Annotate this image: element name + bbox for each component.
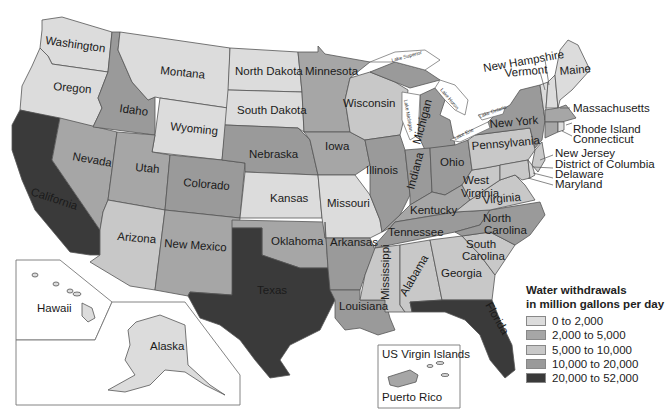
label-kansas: Kansas (270, 192, 309, 204)
state-connecticut[interactable] (545, 122, 558, 138)
state-rhode-island[interactable] (558, 122, 564, 132)
label-oklahoma: Oklahoma (271, 235, 324, 247)
legend-item: 2,000 to 5,000 (526, 328, 666, 342)
legend-title-line1: Water withdrawals (526, 283, 666, 297)
legend-label: 5,000 to 10,000 (552, 344, 632, 356)
label-south-carolina-line2: Carolina (462, 250, 505, 262)
label-maine: Maine (559, 62, 591, 77)
label-north-dakota: North Dakota (235, 65, 303, 77)
legend-label: 2,000 to 5,000 (552, 329, 626, 341)
legend-title-line2: in million gallons per day (526, 297, 666, 311)
label-illinois: Illinois (366, 164, 398, 176)
label-kentucky: Kentucky (410, 204, 458, 216)
label-wisconsin: Wisconsin (343, 97, 395, 109)
legend-swatch (526, 316, 546, 326)
legend-swatch (526, 330, 546, 340)
label-arkansas: Arkansas (330, 236, 378, 248)
label-georgia: Georgia (441, 267, 483, 279)
label-tennessee: Tennessee (388, 226, 444, 238)
label-north-carolina-line1: North (483, 212, 511, 224)
label-hawaii: Hawaii (37, 302, 72, 314)
label-connecticut: Connecticut (573, 133, 635, 145)
legend-item: 10,000 to 20,000 (526, 357, 666, 371)
hawaii-inset-frame (16, 260, 112, 340)
label-mississippi: Mississippi (379, 244, 391, 300)
legend-item: 20,000 to 52,000 (526, 371, 666, 385)
label-missouri: Missouri (327, 197, 370, 209)
label-west-virginia-line2: Virginia (461, 187, 500, 199)
label-utah: Utah (135, 161, 160, 175)
label-minnesota: Minnesota (305, 65, 359, 77)
legend-label: 10,000 to 20,000 (552, 358, 638, 370)
label-north-carolina-line2: Carolina (484, 224, 527, 236)
label-massachusetts: Massachusetts (573, 102, 650, 114)
label-ohio: Ohio (440, 156, 464, 168)
label-us-virgin-islands: US Virgin Islands (382, 348, 470, 360)
legend: Water withdrawals in million gallons per… (526, 283, 666, 385)
legend-item: 0 to 2,000 (526, 314, 666, 328)
label-south-carolina-line1: South (466, 238, 496, 250)
legend-swatch (526, 373, 546, 383)
label-louisiana: Louisiana (339, 300, 389, 312)
label-texas: Texas (257, 284, 287, 296)
label-puerto-rico: Puerto Rico (382, 391, 442, 403)
label-south-dakota: South Dakota (237, 104, 307, 116)
label-vermont: Vermont (504, 63, 549, 79)
state-new-mexico[interactable] (155, 210, 240, 296)
label-nebraska: Nebraska (249, 148, 299, 160)
legend-label: 20,000 to 52,000 (552, 372, 638, 384)
legend-item: 5,000 to 10,000 (526, 343, 666, 357)
label-west-virginia-line1: West (463, 174, 490, 186)
state-us-virgin-islands[interactable] (427, 365, 433, 368)
label-alaska: Alaska (150, 340, 185, 352)
legend-label: 0 to 2,000 (552, 315, 603, 327)
legend-swatch (526, 359, 546, 369)
legend-swatch (526, 345, 546, 355)
label-maryland: Maryland (555, 178, 602, 190)
label-iowa: Iowa (325, 140, 350, 152)
